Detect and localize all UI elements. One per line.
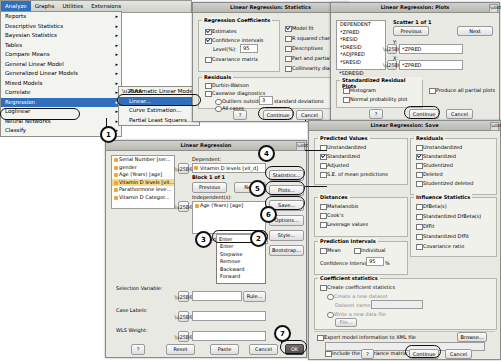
regression-submenu[interactable]: \u25AAAutomatic Linear Modeling... Linea…	[118, 86, 200, 126]
browse-button[interactable]: Browse...	[457, 332, 487, 342]
menu-descriptive-statistics[interactable]: Descriptive Statistics▸	[1, 22, 121, 32]
method-option-stepwise[interactable]: Stepwise	[217, 251, 265, 259]
prediction-individual-checkbox[interactable]: Individual	[354, 247, 385, 253]
confidence-interval-input[interactable]: 95	[366, 257, 384, 266]
list-item[interactable]: *SRESID	[337, 59, 385, 67]
menu-generalized-linear-models[interactable]: Generalized Linear Models▸	[1, 69, 121, 79]
method-option-backward[interactable]: Backward	[217, 266, 265, 274]
menu-correlate[interactable]: Correlate▸	[1, 88, 121, 98]
list-item[interactable]: Age (Years) [age]	[112, 171, 174, 179]
style-button[interactable]: Style...	[269, 230, 304, 241]
plots-source-list[interactable]: DEPENDENT *ZPRED *RESID *DRESID *ADJPRED…	[336, 20, 386, 70]
y-axis-field[interactable]: *ZPRED	[399, 44, 463, 54]
move-to-case-labels-button[interactable]: \u25B6	[178, 311, 189, 322]
menu-neural-networks[interactable]: Neural Networks▸	[1, 117, 121, 127]
menu-bayesian-statistics[interactable]: Bayesian Statistics▸	[1, 31, 121, 41]
statistics-cancel-button[interactable]: Cancel	[296, 110, 323, 120]
method-option-forward[interactable]: Forward	[217, 273, 265, 281]
residual-standardized-checkbox[interactable]: Standardized	[416, 153, 456, 159]
statistics-continue-button[interactable]: Continue	[263, 110, 293, 120]
predicted-adjusted-checkbox[interactable]: Adjusted	[320, 162, 349, 168]
ok-button[interactable]: OK	[285, 344, 304, 355]
menu-reports[interactable]: Reports▸	[1, 12, 121, 22]
list-item[interactable]: Serial Number [ser...	[112, 156, 174, 164]
predicted-se-mean-checkbox[interactable]: S.E. of mean predictions	[320, 171, 388, 177]
create-coefficient-statistics-checkbox[interactable]: Create coefficient statistics	[320, 284, 395, 290]
save-help-button[interactable]: ?	[361, 349, 374, 359]
menu-tables[interactable]: Tables▸	[1, 41, 121, 51]
statistics-help-button[interactable]: ?	[233, 110, 247, 120]
dffit-checkbox[interactable]: DfFit	[416, 223, 434, 229]
method-option-remove[interactable]: Remove	[217, 258, 265, 266]
level-input[interactable]: 95	[240, 44, 258, 53]
plots-next-button[interactable]: Next	[457, 26, 493, 36]
descriptives-checkbox[interactable]: Descriptives	[285, 45, 323, 51]
save-cancel-button[interactable]: Cancel	[445, 349, 472, 359]
submenu-curve-estimation[interactable]: Curve Estimation...	[119, 106, 199, 116]
plots-continue-button[interactable]: Continue	[409, 109, 439, 119]
predicted-standardized-checkbox[interactable]: Standardized	[320, 153, 360, 159]
estimates-checkbox[interactable]: Estimates	[205, 28, 237, 34]
wls-weight-field[interactable]	[192, 331, 266, 341]
list-item[interactable]: *ADJPRED	[337, 51, 385, 59]
residual-deleted-checkbox[interactable]: Deleted	[416, 171, 443, 177]
selection-variable-field[interactable]	[192, 291, 242, 301]
close-icon[interactable]: \u00D7	[296, 142, 305, 151]
covariance-ratio-checkbox[interactable]: Covariance ratio	[416, 243, 464, 249]
help-button[interactable]: ?	[131, 344, 145, 355]
menu-mixed-models[interactable]: Mixed Models▸	[1, 79, 121, 89]
previous-button[interactable]: Previous	[192, 182, 227, 193]
list-item[interactable]: *DRESID	[337, 44, 385, 52]
dataset-name-input[interactable]	[371, 300, 423, 309]
menu-general-linear-model[interactable]: General Linear Model▸	[1, 60, 121, 70]
menu-compare-means[interactable]: Compare Means▸	[1, 50, 121, 60]
menu-regression[interactable]: Regression▸	[1, 98, 121, 108]
save-continue-button[interactable]: Continue	[409, 349, 439, 359]
normal-probability-plot-checkbox[interactable]: Normal probability plot	[343, 96, 408, 102]
plots-help-button[interactable]: ?	[369, 109, 383, 119]
export-model-xml-checkbox[interactable]: Export model information to XML file	[317, 334, 416, 340]
case-labels-field[interactable]	[192, 311, 266, 321]
list-item[interactable]: gender	[112, 164, 174, 172]
standardized-dfbetas-checkbox[interactable]: Standardized DfBeta(s)	[416, 213, 481, 219]
move-to-wls-button[interactable]: \u25B6	[178, 331, 189, 342]
leverage-values-checkbox[interactable]: Leverage values	[320, 221, 368, 227]
move-to-selection-button[interactable]: \u25B6	[178, 291, 189, 302]
x-axis-field[interactable]: *ZPRED	[399, 60, 463, 70]
list-item[interactable]: Vitamin D Categor...	[112, 194, 174, 202]
move-to-x-button[interactable]: \u25B6	[387, 60, 397, 70]
list-item[interactable]: Parathormone leve...	[112, 186, 174, 194]
write-new-data-file-radio[interactable]: Write a new data file	[327, 311, 386, 317]
bootstrap-button[interactable]: Bootstrap...	[269, 245, 304, 256]
list-item[interactable]: Vitamin D levels [vit...	[112, 179, 174, 187]
list-item[interactable]: *ZPRED	[337, 29, 385, 37]
move-to-independents-button[interactable]: \u25B6	[178, 201, 189, 212]
submenu-partial-least-squares[interactable]: Partial Least Squares...	[119, 116, 199, 126]
produce-all-partial-plots-checkbox[interactable]: Produce all partial plots	[429, 87, 495, 93]
covariance-matrix-checkbox[interactable]: Covariance matrix	[205, 56, 258, 62]
list-item[interactable]: DEPENDENT	[337, 21, 385, 29]
histogram-checkbox[interactable]: Histogram	[343, 87, 376, 93]
independents-list[interactable]: Age (Years) [age]	[192, 201, 266, 234]
cooks-checkbox[interactable]: Cook's	[320, 212, 343, 218]
plots-previous-button[interactable]: Previous	[393, 26, 429, 36]
dfbetas-checkbox[interactable]: DfBeta(s)	[416, 203, 447, 209]
list-item[interactable]: *RESID	[337, 36, 385, 44]
move-to-dependent-button[interactable]: \u25B6	[178, 163, 189, 174]
mahalanobis-checkbox[interactable]: Mahalanobis	[320, 203, 358, 209]
plots-cancel-button[interactable]: Cancel	[446, 109, 473, 119]
move-to-y-button[interactable]: \u25B6	[387, 44, 397, 54]
reset-button[interactable]: Reset	[166, 344, 195, 355]
create-new-dataset-radio[interactable]: Create a new dataset	[327, 293, 388, 299]
source-variable-list[interactable]: Serial Number [ser... gender Age (Years)…	[111, 155, 175, 209]
close-icon[interactable]: \u00D7	[489, 4, 498, 13]
prediction-mean-checkbox[interactable]: Mean	[320, 247, 341, 253]
list-item[interactable]: Age (Years) [age]	[193, 202, 265, 210]
method-options-dropdown[interactable]: Enter Stepwise Remove Backward Forward	[216, 242, 266, 284]
residual-studentized-checkbox[interactable]: Studentized	[416, 162, 453, 168]
casewise-diagnostics-checkbox[interactable]: Casewise diagnostics	[205, 90, 265, 96]
durbin-watson-checkbox[interactable]: Durbin-Watson	[205, 82, 249, 88]
submenu-linear[interactable]: Linear...	[119, 97, 199, 107]
close-icon[interactable]: \u00D7	[490, 122, 499, 131]
outliers-sd-input[interactable]: 3	[259, 96, 273, 105]
